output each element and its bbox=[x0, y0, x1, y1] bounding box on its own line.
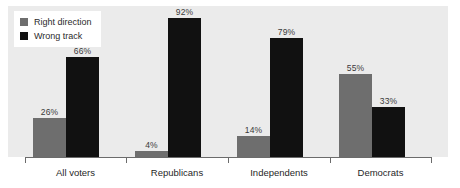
legend-label: Right direction bbox=[34, 17, 92, 27]
bar-value-label: 4% bbox=[145, 140, 158, 150]
chart-legend: Right direction Wrong track bbox=[14, 11, 101, 47]
bar-value-label: 55% bbox=[347, 63, 364, 73]
axis-tick-divider-3 bbox=[330, 157, 331, 163]
bar-value-label: 14% bbox=[245, 125, 262, 135]
axis-label-independents: Independents bbox=[228, 167, 330, 179]
bar-value-label: 33% bbox=[380, 96, 397, 106]
bar-independents-right-direction[interactable] bbox=[237, 136, 270, 157]
bar-group-independents: 14% 79% bbox=[237, 6, 303, 157]
bar-independents-wrong-track[interactable] bbox=[270, 38, 303, 157]
axis-tick-divider-1 bbox=[126, 157, 127, 163]
axis-tick-end bbox=[431, 157, 432, 163]
bar-democrats-right-direction[interactable] bbox=[339, 74, 372, 157]
grouped-bar-chart: 26% 66% 4% 92% bbox=[0, 0, 460, 188]
plot-area: 26% 66% 4% 92% bbox=[8, 6, 448, 157]
bar-value-label: 92% bbox=[176, 7, 193, 17]
legend-label: Wrong track bbox=[34, 31, 82, 41]
bar-republicans-wrong-track[interactable] bbox=[168, 18, 201, 157]
legend-swatch-icon bbox=[20, 32, 28, 40]
bar-democrats-wrong-track[interactable] bbox=[372, 107, 405, 157]
legend-item-right-direction[interactable]: Right direction bbox=[20, 16, 92, 28]
bar-value-label: 79% bbox=[278, 27, 295, 37]
bar-all-voters-right-direction[interactable] bbox=[33, 118, 66, 157]
x-axis bbox=[8, 157, 448, 165]
x-axis-labels: All voters Republicans Independents Demo… bbox=[8, 167, 448, 181]
axis-tick-divider-2 bbox=[228, 157, 229, 163]
legend-swatch-icon bbox=[20, 18, 28, 26]
bar-all-voters-wrong-track[interactable] bbox=[66, 57, 99, 157]
bar-value-label: 66% bbox=[74, 46, 91, 56]
bar-group-democrats: 55% 33% bbox=[339, 6, 405, 157]
axis-label-republicans: Republicans bbox=[126, 167, 228, 179]
axis-label-democrats: Democrats bbox=[330, 167, 431, 179]
axis-tick-start bbox=[25, 157, 26, 163]
legend-item-wrong-track[interactable]: Wrong track bbox=[20, 30, 92, 42]
bar-value-label: 26% bbox=[41, 107, 58, 117]
bar-group-republicans: 4% 92% bbox=[135, 6, 201, 157]
axis-label-all-voters: All voters bbox=[25, 167, 126, 179]
